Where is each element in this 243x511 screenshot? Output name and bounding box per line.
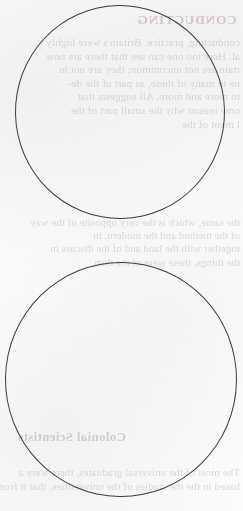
scanned-page: CONDUCTING conducting, practice. Britain… [0, 0, 243, 511]
annotation-layer [0, 0, 243, 511]
circle-annotation-top [13, 3, 227, 221]
circle-annotation-bottom [3, 260, 238, 498]
